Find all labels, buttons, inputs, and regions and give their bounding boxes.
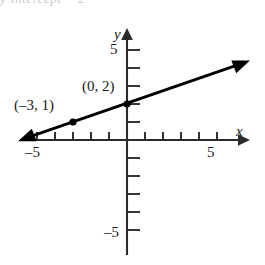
line-arrowhead-right-icon xyxy=(231,61,250,74)
axes-group xyxy=(20,28,250,255)
y-tick-label-neg5: –5 xyxy=(104,225,119,240)
line-arrowhead-left-icon xyxy=(18,129,37,142)
plotted-line xyxy=(28,64,240,137)
x-tick-label-neg5: –5 xyxy=(25,145,40,160)
y-tick-label-pos5: 5 xyxy=(110,42,118,57)
y-axis-label: y xyxy=(114,27,121,42)
y-axis-arrowhead-icon xyxy=(121,28,133,40)
x-axis-label: x xyxy=(236,124,243,139)
point-label-0-2: (0, 2) xyxy=(82,79,115,94)
figure-canvas: y-intercept = 2 xyxy=(0,0,265,265)
point-marker-neg3-1 xyxy=(69,118,76,125)
x-tick-label-pos5: 5 xyxy=(207,145,215,160)
point-marker-0-2 xyxy=(123,100,130,107)
point-label-neg3-1: (–3, 1) xyxy=(14,98,54,113)
coordinate-plane-graph xyxy=(0,0,265,265)
